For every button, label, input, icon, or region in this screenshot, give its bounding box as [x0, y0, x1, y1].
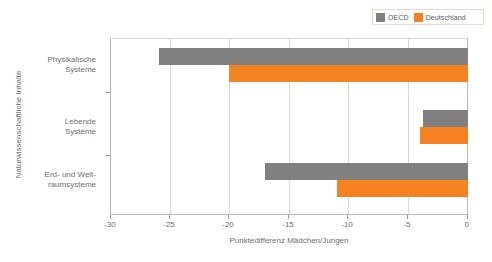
legend-entry-deutschland: Deutschland [414, 13, 466, 22]
bar-deutschland-erd-und-weltraumsysteme [337, 180, 468, 197]
legend-swatch-oecd [376, 13, 385, 22]
y-axis-title: Naturwissenschaftliche Inhalte [14, 45, 23, 205]
xtick-label-0: 0 [465, 220, 469, 229]
x-axis-title: Punktedifferenz Mädchen/Jungen [110, 236, 468, 245]
plot-area [110, 38, 468, 215]
xtick-label--30: -30 [104, 220, 116, 229]
bar-oecd-physikalische-systeme [159, 48, 468, 65]
ytick-mark-1 [105, 92, 110, 93]
xtick-mark--30 [110, 215, 111, 219]
bar-oecd-erd-und-weltraumsysteme [265, 163, 468, 180]
xtick-mark-0 [467, 215, 468, 219]
bar-deutschland-lebende-systeme [420, 127, 468, 144]
xtick-mark--10 [347, 215, 348, 219]
legend-entry-oecd: OECD [376, 13, 409, 22]
xtick-label--5: -5 [403, 220, 410, 229]
bar-deutschland-physikalische-systeme [229, 65, 468, 82]
chart-legend: OECD Deutschland [372, 9, 484, 25]
xtick-label--20: -20 [222, 220, 234, 229]
xtick-mark--5 [407, 215, 408, 219]
xtick-mark--25 [169, 215, 170, 219]
science-gender-gap-bar-chart: OECD Deutschland Physikalische Systeme L… [0, 0, 492, 262]
xtick-label--10: -10 [341, 220, 353, 229]
gridline--25 [170, 39, 171, 214]
xtick-label--15: -15 [282, 220, 294, 229]
xtick-mark--15 [288, 215, 289, 219]
xtick-mark--20 [228, 215, 229, 219]
legend-swatch-deutschland [414, 13, 423, 22]
bar-oecd-lebende-systeme [423, 110, 468, 127]
legend-label-oecd: OECD [388, 14, 409, 21]
xtick-label--25: -25 [163, 220, 175, 229]
legend-label-deutschland: Deutschland [426, 14, 466, 21]
ytick-mark-2 [105, 155, 110, 156]
